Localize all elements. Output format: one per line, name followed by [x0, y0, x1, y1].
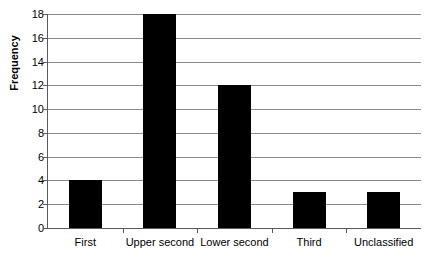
bar: [293, 192, 326, 228]
x-axis-tick-mark: [123, 229, 124, 233]
x-axis-tick-mark: [346, 229, 347, 233]
x-axis-tick-label: Unclassified: [346, 236, 421, 249]
bar-chart: Frequency 181614121086420 FirstUpper sec…: [0, 0, 437, 258]
bar: [69, 180, 102, 228]
bar: [367, 192, 400, 228]
y-axis-line: [47, 14, 48, 229]
gridline: [48, 62, 421, 63]
gridline: [48, 14, 421, 15]
x-axis-tick-label: Third: [272, 236, 347, 249]
x-axis-line: [48, 228, 421, 229]
x-axis-tick-label: Upper second: [123, 236, 198, 249]
x-axis-tick-label: First: [48, 236, 123, 249]
gridline: [48, 38, 421, 39]
x-axis-tick-label: Lower second: [197, 236, 272, 249]
x-axis-tick-mark: [197, 229, 198, 233]
bar: [218, 85, 251, 228]
bar: [143, 14, 176, 228]
y-axis-tick-marks: [0, 14, 48, 229]
plot-area: [48, 14, 421, 228]
x-axis-tick-mark: [272, 229, 273, 233]
